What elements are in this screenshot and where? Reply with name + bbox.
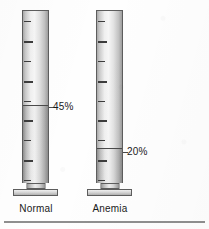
graduation-tick-icon <box>98 81 107 83</box>
value-label-normal: 45% <box>53 101 74 112</box>
packed-cell-column-normal <box>23 106 48 183</box>
graduation-tick-icon <box>24 41 33 43</box>
graduation-tick-icon <box>98 41 107 43</box>
graduation-tick-icon <box>24 160 33 162</box>
graduation-tick-icon <box>24 21 31 22</box>
cylinder-base-normal <box>22 183 49 196</box>
graduation-tick-icon <box>24 81 33 83</box>
hematocrit-figure: 45% Normal 20% Anemia <box>0 0 209 229</box>
cylinder-group-normal <box>22 10 49 196</box>
reading-line-normal <box>23 105 48 106</box>
graduation-tick-icon <box>24 120 33 122</box>
graduated-cylinder-icon-anemia <box>96 10 123 183</box>
cylinder-group-anemia <box>96 10 123 196</box>
cylinder-caption-normal: Normal <box>8 203 64 214</box>
graduation-tick-icon <box>98 21 105 22</box>
graduation-tick-icon <box>98 61 105 62</box>
graduation-tick-icon <box>24 61 31 62</box>
graduation-tick-icon <box>98 140 105 141</box>
graduation-tick-icon <box>24 180 31 181</box>
cylinder-base-anemia <box>96 183 123 196</box>
packed-cell-column-anemia <box>97 149 122 183</box>
figure-bottom-rule <box>4 221 205 223</box>
graduation-tick-icon <box>98 180 105 181</box>
value-label-anemia: 20% <box>127 146 148 157</box>
graduation-tick-icon <box>24 140 31 141</box>
cylinder-base-plate <box>13 189 58 196</box>
graduation-tick-icon <box>98 160 107 162</box>
cylinder-caption-anemia: Anemia <box>82 203 138 214</box>
graduation-tick-icon <box>24 101 31 102</box>
graduation-tick-icon <box>98 101 105 102</box>
cylinder-base-plate <box>87 189 132 196</box>
reading-line-anemia <box>97 148 122 149</box>
graduated-cylinder-icon-normal <box>22 10 49 183</box>
graduation-tick-icon <box>98 120 107 122</box>
